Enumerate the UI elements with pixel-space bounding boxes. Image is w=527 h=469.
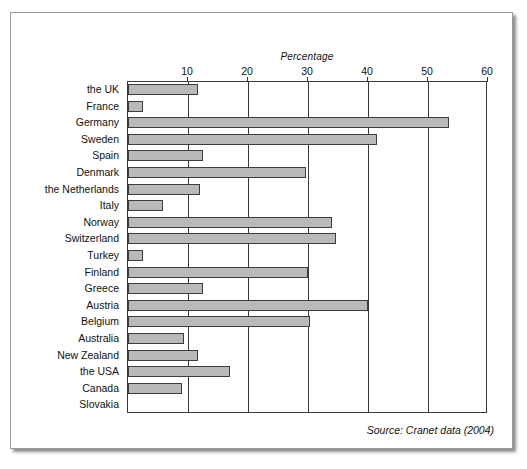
category-label: Sweden xyxy=(11,131,123,148)
x-tick-label: 60 xyxy=(481,65,493,77)
category-label: Slovakia xyxy=(11,396,123,413)
category-label: Austria xyxy=(11,297,123,314)
bar xyxy=(128,267,308,278)
bar xyxy=(128,366,230,377)
bar xyxy=(128,217,332,228)
category-label: Germany xyxy=(11,114,123,131)
category-label: New Zealand xyxy=(11,347,123,364)
bar-row xyxy=(128,215,486,232)
bar xyxy=(128,316,310,327)
category-label: the Netherlands xyxy=(11,181,123,198)
category-label: Norway xyxy=(11,214,123,231)
bar-row xyxy=(128,381,486,398)
category-label: Finland xyxy=(11,264,123,281)
plot-area xyxy=(127,81,487,413)
category-label: Greece xyxy=(11,280,123,297)
bar-row xyxy=(128,281,486,298)
bar xyxy=(128,101,143,112)
bar-chart: Percentage 102030405060 the UKFranceGerm… xyxy=(11,13,514,450)
bar xyxy=(128,283,203,294)
category-label: France xyxy=(11,98,123,115)
bar xyxy=(128,200,163,211)
bar-row xyxy=(128,99,486,116)
figure-frame: Percentage 102030405060 the UKFranceGerm… xyxy=(10,12,513,449)
x-tick-mark xyxy=(487,77,488,82)
bar-row xyxy=(128,198,486,215)
bar xyxy=(128,333,184,344)
source-note: Source: Cranet data (2004) xyxy=(367,424,494,436)
bar xyxy=(128,233,336,244)
bar-row xyxy=(128,314,486,331)
x-tick-label: 20 xyxy=(241,65,253,77)
bar-row xyxy=(128,148,486,165)
x-tick-label: 40 xyxy=(361,65,373,77)
x-tick-label: 30 xyxy=(301,65,313,77)
bar xyxy=(128,383,182,394)
bar-row xyxy=(128,348,486,365)
x-tick-label: 50 xyxy=(421,65,433,77)
category-label: the USA xyxy=(11,363,123,380)
bar xyxy=(128,150,203,161)
bar-row xyxy=(128,298,486,315)
bar xyxy=(128,167,306,178)
category-label: Denmark xyxy=(11,164,123,181)
category-label: Switzerland xyxy=(11,230,123,247)
bar xyxy=(128,350,198,361)
bar-series xyxy=(128,82,486,412)
category-label: Belgium xyxy=(11,313,123,330)
category-label: Italy xyxy=(11,197,123,214)
bar-row xyxy=(128,248,486,265)
bar-row xyxy=(128,397,486,414)
bar-row xyxy=(128,331,486,348)
bar xyxy=(128,134,377,145)
x-tick-label: 10 xyxy=(181,65,193,77)
bar-row xyxy=(128,364,486,381)
bar xyxy=(128,300,368,311)
category-label: Spain xyxy=(11,147,123,164)
category-label: Turkey xyxy=(11,247,123,264)
category-axis-labels: the UKFranceGermanySwedenSpainDenmarkthe… xyxy=(11,81,123,413)
bar-row xyxy=(128,231,486,248)
bar-row xyxy=(128,182,486,199)
bar-row xyxy=(128,115,486,132)
category-label: the UK xyxy=(11,81,123,98)
bar-row xyxy=(128,82,486,99)
category-label: Canada xyxy=(11,380,123,397)
bar-row xyxy=(128,265,486,282)
category-label: Australia xyxy=(11,330,123,347)
bar-row xyxy=(128,132,486,149)
bar xyxy=(128,250,143,261)
bar-row xyxy=(128,165,486,182)
bar xyxy=(128,117,449,128)
bar xyxy=(128,84,198,95)
bar xyxy=(128,184,200,195)
